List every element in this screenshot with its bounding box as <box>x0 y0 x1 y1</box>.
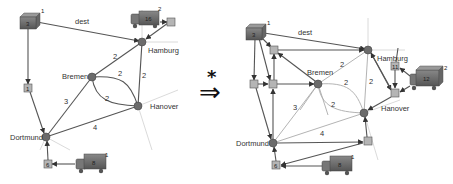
edge-depot-to-box2 <box>254 38 255 80</box>
city-node-dortmund[interactable] <box>42 133 50 141</box>
edge-bremen-hanover-upper <box>92 77 138 106</box>
city-label-bremen: Bremen <box>62 72 88 81</box>
edge-box-to-dortmund-bottom <box>47 141 48 160</box>
edge-label-bremen-hanover-lower: 2 <box>331 100 335 109</box>
truck-right-id: 12 <box>423 76 430 82</box>
truck-top[interactable]: 16 2 <box>131 6 162 28</box>
city-node-hamburg[interactable] <box>138 38 146 46</box>
edge-bremen-dortmund <box>273 84 318 143</box>
edge-label-bremen-hamburg: 2 <box>340 60 344 69</box>
city-label-hanover: Hanover <box>150 102 179 111</box>
transfer-box-3[interactable] <box>269 80 277 88</box>
edge-depot-to-box1 <box>262 38 271 47</box>
city-label-dortmund: Dortmund <box>10 133 43 142</box>
depot-tag: 1 <box>41 8 45 14</box>
edge-box6-to-dortmund <box>274 147 276 161</box>
edge-box2-to-dortmund <box>256 88 271 139</box>
city-node-hanover[interactable] <box>134 102 142 110</box>
edge-label-bremen-hanover-lower: 2 <box>105 94 109 103</box>
city-label-hamburg: Hamburg <box>148 46 179 55</box>
depot-box[interactable]: 3 1 <box>246 20 271 40</box>
edge-label-bremen-hanover-upper: 2 <box>118 69 122 78</box>
truck-bottom-tag: 1 <box>105 152 109 158</box>
depot-box[interactable]: 3 1 <box>20 8 45 29</box>
edge-truck-to-box11 <box>400 68 410 76</box>
edge-hamburg-hanover <box>364 50 368 113</box>
axis-line <box>138 106 152 150</box>
edge-label-bremen-hanover-upper: 2 <box>344 78 348 87</box>
edge-box-to-dortmund <box>30 92 44 133</box>
truck-top-tag: 2 <box>158 6 162 12</box>
implies-arrow-icon: ⇒ <box>199 77 221 107</box>
right-graph: dest 2 2 2 2 3 4 Hamburg Bremen Hanover … <box>236 18 448 175</box>
edge-dortmund-hanover <box>46 106 138 137</box>
edge-label-bremen-hamburg: 2 <box>113 52 117 61</box>
box-near-hanover[interactable] <box>364 137 372 145</box>
edge-label-bremen-dortmund: 3 <box>293 103 297 112</box>
edge-label-hamburg-hanover: 2 <box>142 71 146 80</box>
edge-bremen-sw <box>300 84 318 110</box>
axis-line <box>364 113 378 160</box>
edge-label-dortmund-hanover: 4 <box>93 123 97 132</box>
edge-label-hamburg-hanover: 2 <box>369 77 373 86</box>
transfer-box-1[interactable] <box>270 46 278 54</box>
city-label-hamburg: Hamburg <box>377 54 408 63</box>
transfer-box-2[interactable] <box>250 80 258 88</box>
truck-bottom[interactable]: 8 1 <box>76 152 109 173</box>
city-label-bremen: Bremen <box>307 68 333 77</box>
city-label-hanover: Hanover <box>381 104 410 113</box>
truck-top-id: 16 <box>145 16 152 22</box>
truck-bottom-tag: 1 <box>351 154 355 160</box>
box-top-right[interactable] <box>167 18 175 26</box>
edge-dortmund-to-box <box>277 142 363 143</box>
depot-tag: 1 <box>267 20 271 26</box>
city-node-hamburg[interactable] <box>364 46 372 54</box>
truck-right-tag: 2 <box>444 65 448 71</box>
city-node-bremen[interactable] <box>314 80 322 88</box>
city-node-hanover[interactable] <box>360 109 368 117</box>
transform-arrow: * ⇒ <box>199 66 221 107</box>
edge-truck-to-box5 <box>400 86 410 92</box>
edge-bremen-hanover-upper <box>318 84 364 113</box>
truck-bottom[interactable]: 8 1 <box>322 154 355 175</box>
edge-dortmund-hanover <box>273 113 364 143</box>
edge-bremen-dortmund <box>46 77 92 137</box>
edge-label-bremen-dortmund: 3 <box>64 97 68 106</box>
edge-dest <box>264 33 365 49</box>
edge-label-dest: dest <box>75 17 90 26</box>
box-hanover[interactable] <box>391 89 399 97</box>
edge-label-dortmund-hanover: 4 <box>320 129 324 138</box>
diagram-canvas: dest 2 2 2 2 3 4 Hamburg Bremen Hanover … <box>0 0 453 184</box>
truck-right[interactable]: 12 2 <box>410 65 448 90</box>
city-label-dortmund: Dortmund <box>236 139 269 148</box>
edge-bremen-s <box>318 84 328 115</box>
city-node-dortmund[interactable] <box>269 139 277 147</box>
box-hamburg-id: 11 <box>392 64 399 70</box>
left-graph: dest 2 2 2 2 3 4 Hamburg Bremen Hanover … <box>10 6 179 173</box>
city-node-bremen[interactable] <box>88 73 96 81</box>
edge-label-dest: dest <box>298 28 313 37</box>
